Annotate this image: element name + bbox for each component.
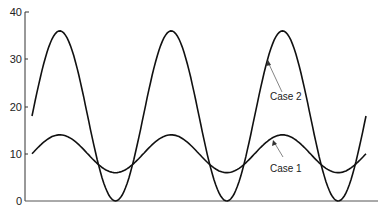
y-tick-label: 0 — [16, 195, 22, 207]
y-tick-label: 30 — [10, 53, 22, 65]
series-case-2 — [32, 31, 366, 201]
y-ticks — [25, 12, 29, 154]
y-tick-label: 20 — [10, 101, 22, 113]
y-tick-label: 40 — [10, 6, 22, 18]
case-2-label: Case 2 — [270, 91, 302, 102]
line-chart: 40 30 20 10 0 Case 2 Case 1 — [0, 0, 384, 213]
case-2-arrow — [268, 62, 282, 92]
y-tick-label: 10 — [10, 148, 22, 160]
case-1-label: Case 1 — [270, 163, 302, 174]
